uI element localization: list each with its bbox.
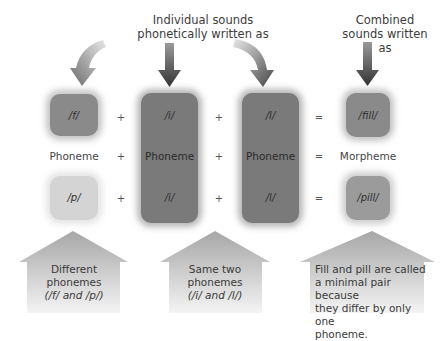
callout-1-line-2: (/f/ and /p/) (24, 289, 124, 302)
callout-same-phonemes: Same two phonemes (/i/ and /l/) (165, 263, 265, 302)
plus-op: + (212, 151, 226, 162)
cell-bottom-3: /l/ (242, 192, 299, 203)
callout-1-line-1: Different phonemes (24, 263, 124, 289)
label-phoneme-3: Phoneme (242, 150, 299, 162)
plus-op: + (114, 112, 128, 123)
arrow-down-icon (158, 43, 181, 87)
cell-bottom-1: /p/ (50, 192, 98, 203)
cell-bottom-2: /i/ (141, 192, 198, 203)
equals-op: = (312, 193, 326, 204)
callout-2-line-1: Same two phonemes (165, 263, 265, 289)
label-morpheme: Morpheme (332, 150, 404, 162)
callout-3-line-4: phoneme. (315, 328, 427, 341)
plus-op: + (114, 151, 128, 162)
curved-arrow-down-right-icon (233, 39, 274, 87)
callout-3-line-1: Fill and pill are called (315, 263, 427, 276)
callout-2-line-2: (/i/ and /l/) (165, 289, 265, 302)
cell-top-1: /f/ (50, 110, 98, 121)
cell-top-4: /fill/ (346, 110, 390, 121)
cell-top-3: /l/ (242, 110, 299, 121)
equals-op: = (312, 112, 326, 123)
callout-different-phonemes: Different phonemes (/f/ and /p/) (24, 263, 124, 302)
label-phoneme-1: Phoneme (36, 150, 112, 162)
plus-op: + (212, 193, 226, 204)
equals-op: = (312, 151, 326, 162)
cell-bottom-4: /pill/ (346, 192, 390, 203)
plus-op: + (114, 193, 128, 204)
cell-top-2: /i/ (141, 110, 198, 121)
curved-arrow-down-left-icon (70, 40, 106, 86)
callout-minimal-pair: Fill and pill are called a minimal pair … (315, 263, 427, 341)
callout-3-line-3: they differ by only one (315, 302, 427, 328)
arrow-down-combined-icon (356, 42, 379, 86)
callout-3-line-2: a minimal pair because (315, 276, 427, 302)
label-phoneme-2: Phoneme (141, 150, 198, 162)
plus-op: + (212, 112, 226, 123)
